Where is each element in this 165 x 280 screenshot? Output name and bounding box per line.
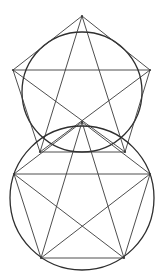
construction-drawing: [0, 0, 165, 280]
upper-vertex-dot: [39, 151, 41, 153]
lower-vertex-dot: [13, 173, 15, 175]
lower-construction: [10, 121, 154, 270]
pentagon-pentagram-construction: [0, 0, 165, 280]
upper-vertex-dot: [12, 69, 14, 71]
lower-vertex-dot: [149, 173, 151, 175]
lower-vertex-dot: [81, 121, 83, 123]
lower-vertex-dot: [40, 257, 42, 259]
upper-vertex-dot: [81, 15, 83, 17]
upper-pentagon: [13, 16, 150, 152]
lower-vertex-dot: [123, 257, 125, 259]
upper-construction: [12, 15, 151, 153]
upper-vertex-dot: [124, 151, 126, 153]
lower-circle: [10, 126, 154, 270]
upper-vertex-dot: [149, 69, 151, 71]
upper-circle: [22, 32, 142, 152]
